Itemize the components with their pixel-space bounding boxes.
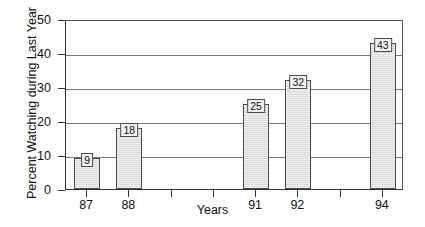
y-tick: [58, 88, 65, 89]
y-tick-label: 50: [11, 13, 51, 27]
value-label-88: 18: [121, 123, 139, 137]
x-axis-title: Years: [0, 203, 425, 217]
value-label-94: 43: [374, 38, 392, 52]
x-tick: [382, 190, 383, 197]
y-tick-label: 40: [11, 47, 51, 61]
bar-94: [370, 43, 396, 189]
x-tick: [86, 190, 87, 197]
y-tick-label: 20: [11, 115, 51, 129]
y-tick: [58, 20, 65, 21]
y-tick-label: 0: [11, 183, 51, 197]
gridline: [66, 123, 402, 124]
y-tick: [58, 122, 65, 123]
value-label-92: 32: [290, 75, 308, 89]
x-tick: [340, 190, 341, 197]
x-tick: [297, 190, 298, 197]
value-label-87: 9: [81, 153, 93, 167]
y-tick: [58, 54, 65, 55]
x-tick: [255, 190, 256, 197]
y-tick: [58, 190, 65, 191]
bar-chart-figure: Percent Watching during Last Year 010203…: [0, 0, 425, 227]
gridline: [66, 89, 402, 90]
x-tick: [171, 190, 172, 197]
bar-91: [243, 104, 269, 189]
y-tick: [58, 156, 65, 157]
y-tick-label: 30: [11, 81, 51, 95]
value-label-91: 25: [247, 99, 265, 113]
bar-92: [285, 80, 311, 189]
y-tick-label: 10: [11, 149, 51, 163]
bar-88: [116, 128, 142, 189]
plot-area: 918253243: [65, 20, 403, 190]
x-tick: [128, 190, 129, 197]
gridline: [66, 55, 402, 56]
y-axis-title: Percent Watching during Last Year: [22, 0, 42, 208]
x-tick: [213, 190, 214, 197]
